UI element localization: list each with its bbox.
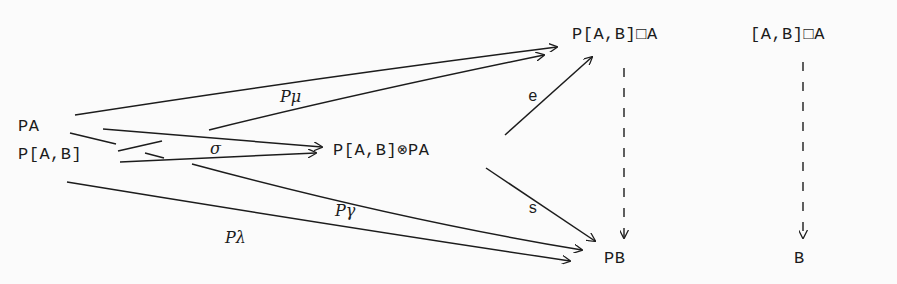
node-box-top: P[A,B]□A xyxy=(572,25,658,45)
node-pa: PA xyxy=(18,117,39,137)
edge-tensor-to-pb-s xyxy=(486,168,595,241)
commutative-diagram: PA P[A,B] P[A,B]⊗PA P[A,B]□A [A,B]□A PB … xyxy=(0,0,897,284)
node-b: B xyxy=(794,249,805,269)
edge-pab-to-box-pmu xyxy=(209,55,544,130)
label-p-mu: Pμ xyxy=(280,88,301,106)
label-sigma: σ xyxy=(210,140,221,158)
edge-tensor-to-box-e xyxy=(505,57,592,135)
node-tensor: P[A,B]⊗PA xyxy=(333,141,429,161)
edge-pab-to-pb-plambda xyxy=(67,182,570,261)
edge-pab-to-pb-pgamma xyxy=(192,164,582,250)
label-p-gamma: Pγ xyxy=(335,202,355,220)
node-pb: PB xyxy=(604,249,625,269)
label-s: s xyxy=(528,200,538,218)
node-pab: P[A,B] xyxy=(18,145,82,165)
edge-crossing-stub-2 xyxy=(145,153,164,158)
edge-crossing-stub xyxy=(118,141,162,151)
edge-pa-stub xyxy=(70,133,116,144)
node-box-right: [A,B]□A xyxy=(750,25,825,45)
label-e: e xyxy=(528,88,538,106)
label-p-lambda: Pλ xyxy=(225,229,246,247)
